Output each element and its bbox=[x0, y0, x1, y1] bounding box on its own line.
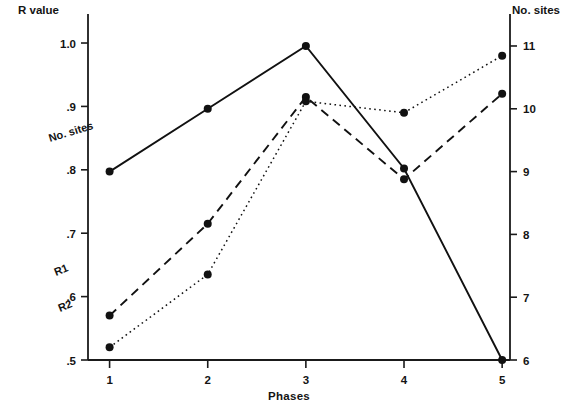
x-tick-label: 4 bbox=[401, 374, 408, 386]
y2-tick-label: 10 bbox=[523, 103, 536, 115]
y2-tick-label: 7 bbox=[523, 292, 529, 304]
y-axis-title: R value bbox=[18, 4, 59, 16]
y2-tick-label: 8 bbox=[523, 229, 530, 241]
data-point bbox=[106, 312, 114, 320]
data-point bbox=[400, 164, 408, 172]
data-point bbox=[498, 90, 506, 98]
line-chart-canvas: R value No. sites Phases .5.6.7.8.91.0 6… bbox=[0, 0, 578, 408]
y2-tick-label: 11 bbox=[523, 40, 536, 52]
data-point bbox=[302, 42, 310, 50]
y-tick-label: .9 bbox=[66, 101, 76, 113]
data-point bbox=[204, 270, 212, 278]
data-point bbox=[106, 343, 114, 351]
y2-tick-label: 9 bbox=[523, 166, 529, 178]
y-tick-label: .5 bbox=[66, 355, 76, 367]
x-tick-label: 3 bbox=[303, 374, 309, 386]
x-tick-label: 2 bbox=[205, 374, 211, 386]
y-tick-label: .7 bbox=[66, 228, 76, 240]
y-tick-label: 1.0 bbox=[60, 38, 76, 50]
x-tick-label: 1 bbox=[106, 374, 113, 386]
data-point bbox=[498, 356, 506, 364]
data-point bbox=[204, 105, 212, 113]
chart-figure: R value No. sites Phases .5.6.7.8.91.0 6… bbox=[0, 0, 578, 408]
y2-axis-title: No. sites bbox=[512, 4, 560, 16]
y-tick-label: .8 bbox=[66, 164, 76, 176]
y2-tick-label: 6 bbox=[523, 355, 529, 367]
data-point bbox=[400, 109, 408, 117]
data-point bbox=[204, 220, 212, 228]
data-point bbox=[302, 97, 310, 105]
data-point bbox=[106, 168, 114, 176]
data-point bbox=[400, 175, 408, 183]
data-point bbox=[498, 52, 506, 60]
x-tick-label: 5 bbox=[499, 374, 506, 386]
x-axis-title: Phases bbox=[268, 390, 310, 402]
